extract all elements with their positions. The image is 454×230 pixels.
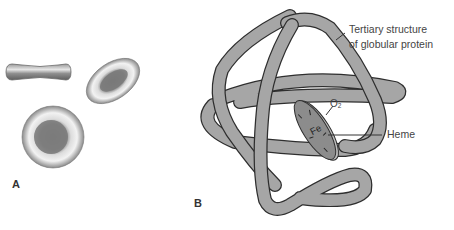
- oxygen-label: O2: [330, 96, 341, 113]
- panel-label-b: B: [194, 197, 202, 209]
- figure: A B Tertiary structure of globular prote…: [0, 0, 454, 230]
- tertiary-structure-label: Tertiary structure of globular protein: [349, 22, 433, 52]
- oxygen-symbol: O: [330, 98, 338, 109]
- tertiary-line-2: of globular protein: [349, 37, 433, 52]
- rbc-face-view: [22, 106, 84, 168]
- rbc-side-view: [6, 64, 71, 80]
- tertiary-line-1: Tertiary structure: [349, 22, 433, 37]
- panel-label-a: A: [12, 178, 20, 190]
- heme-label: Heme: [387, 127, 415, 142]
- oxygen-subscript: 2: [338, 102, 342, 109]
- rbc-oblique-view: [78, 49, 148, 113]
